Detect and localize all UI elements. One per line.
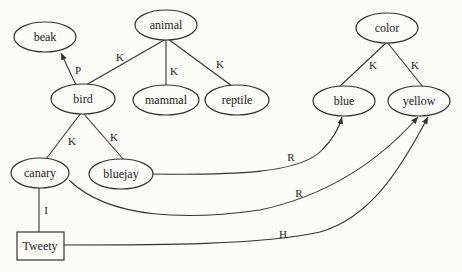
edge-label-color-yellow: K (411, 59, 419, 71)
node-animal[interactable]: animal (135, 10, 197, 40)
edge-label-bird-beak: P (75, 64, 81, 76)
edge-label-color-blue: K (369, 59, 377, 71)
node-animal-label: animal (150, 18, 183, 32)
semantic-network-diagram: K K K P K K K K I R R H beak animal bird… (0, 0, 462, 272)
node-mammal[interactable]: mammal (133, 85, 199, 115)
node-bird-label: bird (73, 92, 92, 106)
edge-bird-beak (61, 53, 76, 85)
node-tweety-label: Tweety (22, 239, 57, 253)
edge-animal-bird (86, 39, 166, 85)
edge-label-tweety-yellow: H (279, 228, 287, 240)
node-canary-label: canary (24, 166, 56, 180)
edge-labels: K K K P K K K K I R R H (44, 51, 419, 240)
edge-color-blue (338, 42, 387, 88)
node-beak-label: beak (34, 30, 57, 44)
node-color[interactable]: color (356, 13, 418, 43)
node-bluejay[interactable]: bluejay (89, 159, 153, 189)
node-color-label: color (375, 21, 400, 35)
node-bluejay-label: bluejay (103, 167, 138, 181)
node-mammal-label: mammal (145, 93, 188, 107)
node-reptile[interactable]: reptile (205, 85, 269, 115)
edge-label-animal-reptile: K (216, 58, 224, 70)
edge-label-bird-canary: K (68, 135, 76, 147)
node-canary[interactable]: canary (11, 158, 69, 188)
edge-bluejay-blue (153, 117, 342, 174)
edge-label-animal-bird: K (116, 51, 124, 63)
node-beak[interactable]: beak (14, 22, 76, 52)
edge-label-bluejay-blue: R (287, 151, 295, 163)
node-blue[interactable]: blue (313, 86, 375, 116)
node-reptile-label: reptile (222, 93, 253, 107)
node-blue-label: blue (334, 94, 355, 108)
edge-label-animal-mammal: K (170, 65, 178, 77)
node-bird[interactable]: bird (51, 84, 115, 114)
edge-label-bird-bluejay: K (110, 131, 118, 143)
node-yellow[interactable]: yellow (388, 86, 450, 116)
edge-label-canary-tweety: I (44, 204, 48, 216)
edge-label-canary-yellow: R (295, 187, 303, 199)
node-yellow-label: yellow (403, 94, 436, 108)
node-tweety[interactable]: Tweety (17, 232, 64, 260)
